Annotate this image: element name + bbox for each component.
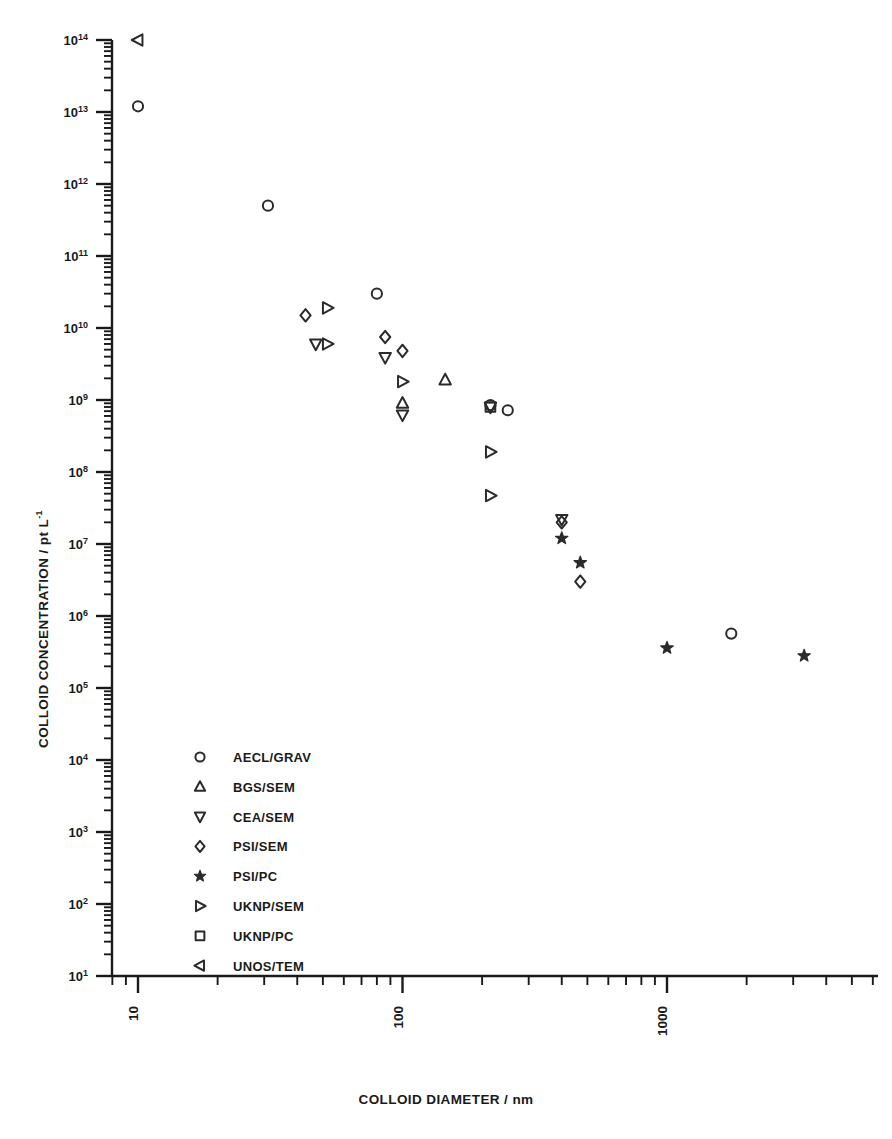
legend-label: PSI/PC [233,869,278,884]
svg-text:1000: 1000 [655,1006,670,1036]
data-point [574,556,586,568]
scatter-plot: 1014101310121011101010910810710610510410… [0,0,892,1139]
svg-text:1010: 1010 [64,320,88,336]
series-uknp-sem [323,302,497,501]
svg-text:106: 106 [69,608,88,624]
svg-text:1013: 1013 [64,104,88,120]
legend-item: PSI/PC [194,869,277,884]
data-point [503,405,513,415]
data-points [132,34,811,661]
data-point [323,302,334,313]
data-point [439,374,450,385]
svg-text:10: 10 [126,1006,141,1021]
legend-item: BGS/SEM [195,780,295,795]
data-point [486,446,497,457]
x-axis-title: COLLOID DIAMETER / nm [0,1092,892,1107]
data-point [372,289,382,299]
axes [112,40,878,976]
svg-text:103: 103 [69,824,88,840]
data-point [300,309,310,321]
data-point [556,532,568,544]
legend-item: UNOS/TEM [194,959,304,974]
svg-text:101: 101 [69,968,88,984]
data-point [379,353,390,364]
svg-text:104: 104 [69,752,88,768]
legend-marker-diamond-icon [195,841,204,852]
legend-label: UKNP/PC [233,929,294,944]
data-point [398,376,409,387]
series-psi-sem [300,309,585,588]
legend-item: AECL/GRAV [195,750,311,765]
legend-label: AECL/GRAV [233,750,311,765]
legend-marker-triangle-up-icon [195,781,205,791]
legend-item: UKNP/PC [196,929,294,944]
legend-marker-triangle-down-icon [195,813,205,823]
data-point [310,340,321,351]
svg-text:1014: 1014 [64,32,88,48]
legend-item: CEA/SEM [195,810,294,825]
legend-label: BGS/SEM [233,780,295,795]
data-point [397,410,408,421]
legend-marker-triangle-left-icon [194,960,204,970]
legend-label: UKNP/SEM [233,899,304,914]
series-psi-pc [556,532,811,661]
legend-label: PSI/SEM [233,839,288,854]
data-point [323,338,334,349]
svg-text:105: 105 [69,680,88,696]
data-point [380,331,390,343]
legend: AECL/GRAVBGS/SEMCEA/SEMPSI/SEMPSI/PCUKNP… [194,750,311,974]
legend-item: PSI/SEM [195,839,287,854]
legend-marker-star-icon [194,870,205,881]
data-point [263,201,273,211]
data-point [486,490,497,501]
data-point [661,641,673,653]
data-point [132,34,143,45]
svg-text:1011: 1011 [64,248,88,264]
data-point [726,628,736,638]
legend-marker-circle-icon [195,752,204,761]
svg-text:100: 100 [391,1006,406,1029]
x-axis-ticks: 101001000 [112,976,872,1036]
data-point [798,649,810,661]
legend-label: UNOS/TEM [233,959,304,974]
svg-text:108: 108 [69,464,88,480]
series-aecl-grav [133,101,736,638]
legend-item: UKNP/SEM [196,899,304,914]
data-point [397,345,407,357]
chart-canvas: 1014101310121011101010910810710610510410… [0,0,892,1139]
data-point [397,397,408,408]
legend-marker-triangle-right-icon [196,901,206,911]
svg-text:1012: 1012 [64,176,88,192]
svg-text:102: 102 [69,896,88,912]
data-point [575,575,585,587]
series-unos-tem [132,34,143,45]
svg-text:109: 109 [69,392,88,408]
data-point [133,101,143,111]
svg-text:107: 107 [69,536,88,552]
series-cea-sem [310,340,567,526]
legend-marker-square-icon [196,931,205,940]
y-axis-ticks: 1014101310121011101010910810710610510410… [64,32,112,984]
legend-label: CEA/SEM [233,810,294,825]
